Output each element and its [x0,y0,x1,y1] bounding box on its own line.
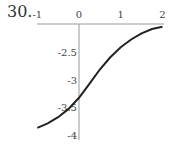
y-tick-label: -4 [67,130,77,141]
x-tick-label: 0 [76,9,82,20]
chart: -1012 -2.5-3-3.5-4 [0,0,172,147]
x-tick-label: -1 [32,9,42,20]
x-tick-label: 2 [159,9,165,20]
y-tick-label: -3 [67,75,77,86]
y-tick-label: -2.5 [58,47,77,58]
x-tick-label: 1 [118,9,124,20]
data-curve [37,27,162,128]
y-tick-labels: -2.5-3-3.5-4 [58,47,77,141]
x-tick-labels: -1012 [32,9,165,20]
